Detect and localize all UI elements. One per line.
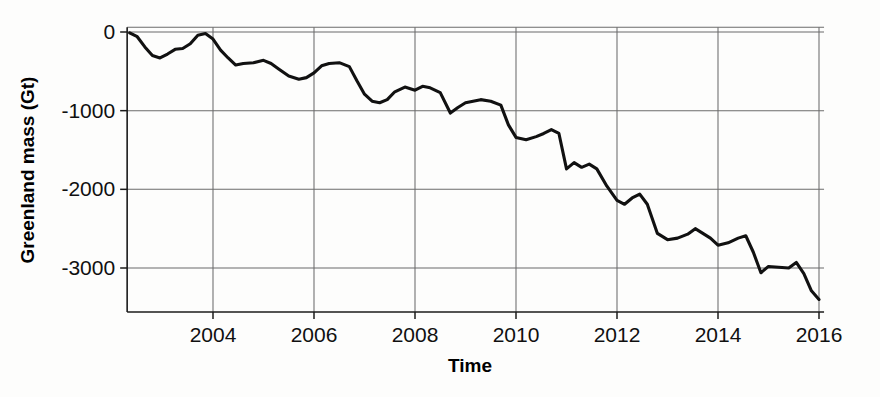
greenland-mass-line-chart: 0-1000-2000-3000 20042006200820102012201… xyxy=(0,0,880,397)
axis-frame xyxy=(127,27,824,312)
horizontal-gridlines xyxy=(127,27,824,268)
xtick-label-2010: 2010 xyxy=(493,323,540,346)
xtick-label-2006: 2006 xyxy=(291,323,338,346)
ytick-label-0: 0 xyxy=(103,20,115,43)
y-axis-tick-labels: 0-1000-2000-3000 xyxy=(61,20,115,279)
y-axis-ticks xyxy=(120,32,127,268)
ytick-label--2000: -2000 xyxy=(61,177,115,200)
chart-figure: 0-1000-2000-3000 20042006200820102012201… xyxy=(0,0,880,397)
data-series-line xyxy=(130,33,819,300)
xtick-label-2008: 2008 xyxy=(392,323,439,346)
x-axis-title: Time xyxy=(448,355,492,376)
x-axis-tick-labels: 2004200620082010201220142016 xyxy=(190,323,843,346)
x-axis-ticks xyxy=(213,312,819,319)
y-axis-title: Greenland mass (Gt) xyxy=(17,77,38,264)
xtick-label-2004: 2004 xyxy=(190,323,237,346)
ytick-label--3000: -3000 xyxy=(61,256,115,279)
xtick-label-2016: 2016 xyxy=(796,323,843,346)
vertical-gridlines xyxy=(213,27,819,312)
xtick-label-2014: 2014 xyxy=(695,323,742,346)
xtick-label-2012: 2012 xyxy=(594,323,641,346)
ytick-label--1000: -1000 xyxy=(61,99,115,122)
